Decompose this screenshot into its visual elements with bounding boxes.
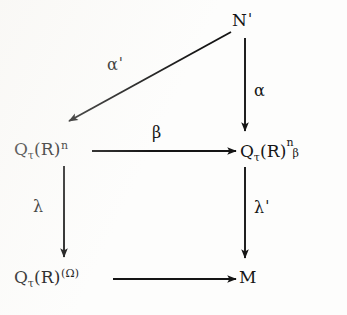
node-m-base: M: [239, 267, 257, 287]
node-q-tau-r-n-beta-middle: (R): [260, 141, 287, 161]
node-q-tau-r-n-superscript: n: [61, 139, 68, 152]
node-q-tau-r-n-beta-subscript2: β: [293, 148, 300, 159]
edge-alpha-prime: [69, 32, 231, 121]
node-n-prime-mark: ': [248, 10, 252, 28]
node-q-tau-r-n: Qτ(R)n: [14, 140, 68, 161]
node-n-prime: N': [232, 12, 252, 29]
node-m: M: [239, 269, 257, 286]
edge-label-beta: β: [152, 125, 161, 141]
node-q-tau-r-omega: Qτ(R)(Ω): [14, 268, 79, 289]
diagram-canvas: N' Qτ(R)n Qτ(R) n β Qτ(R)(Ω) M α' α β λ …: [0, 0, 347, 315]
edge-label-lambda-prime: λ': [254, 199, 269, 216]
edge-label-alpha-prime-mark: ': [119, 54, 123, 72]
node-q-tau-r-n-beta: Qτ(R) n β: [240, 140, 300, 163]
node-q-tau-r-omega-base: Q: [14, 267, 28, 287]
edge-label-beta-base: β: [152, 123, 161, 142]
node-q-tau-r-n-middle: (R): [34, 139, 61, 159]
node-q-tau-r-n-beta-indices: n β: [287, 140, 300, 157]
node-q-tau-r-n-base: Q: [14, 139, 28, 159]
edge-label-alpha-prime: α': [107, 56, 123, 73]
node-n-prime-base: N: [232, 10, 247, 30]
edge-label-lambda-prime-mark: ': [265, 197, 269, 215]
node-q-tau-r-omega-superscript: (Ω): [61, 267, 79, 280]
edge-label-lambda: λ: [33, 199, 43, 215]
node-q-tau-r-omega-middle: (R): [34, 267, 61, 287]
node-q-tau-r-n-beta-base: Q: [240, 141, 254, 161]
edge-label-alpha-prime-base: α: [107, 55, 118, 74]
edge-label-alpha: α: [254, 83, 265, 99]
edge-label-alpha-base: α: [254, 81, 265, 100]
edge-label-lambda-base: λ: [33, 197, 43, 216]
edge-label-lambda-prime-base: λ: [254, 198, 264, 217]
